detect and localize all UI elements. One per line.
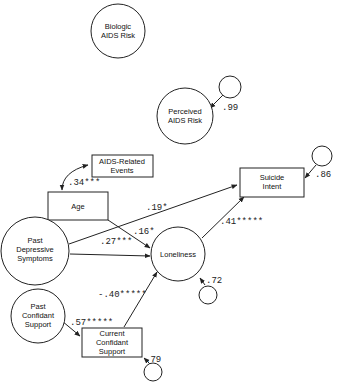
svg-text:Suicide: Suicide (260, 173, 285, 182)
residual-circle-perceived (219, 76, 241, 98)
coef-events-age: .34*** (68, 178, 100, 188)
residual-label-perceived: .99 (222, 103, 238, 113)
residual-label-currconf: .79 (145, 355, 161, 365)
coef-loneliness-suicide: .41***** (220, 217, 263, 227)
svg-text:Intent: Intent (263, 182, 283, 191)
node-perceived-aids-risk: Perceived AIDS Risk (157, 88, 213, 144)
svg-text:Confidant: Confidant (96, 338, 129, 347)
svg-text:Past: Past (30, 302, 46, 311)
residual-circle-loneliness (199, 286, 217, 304)
coef-pastconf-currconf: .57***** (70, 318, 113, 328)
svg-text:AIDS Risk: AIDS Risk (101, 31, 135, 40)
svg-text:Past: Past (27, 236, 43, 245)
svg-text:AIDS-Related: AIDS-Related (99, 157, 145, 166)
svg-text:Support: Support (25, 320, 52, 329)
svg-text:Symptoms: Symptoms (17, 254, 53, 263)
coef-age-loneliness: .16* (133, 227, 155, 237)
residual-circle-currconf (144, 363, 162, 381)
residual-label-suicide: .86 (315, 170, 331, 180)
edge-pastdep-loneliness (70, 254, 150, 256)
node-loneliness: Loneliness (151, 227, 205, 281)
node-aids-related-events: AIDS-Related Events (92, 155, 153, 177)
node-current-confidant-support: Current Confidant Support (82, 328, 142, 357)
node-suicide-intent: Suicide Intent (240, 168, 304, 197)
svg-text:Current: Current (99, 329, 125, 338)
svg-text:Age: Age (71, 202, 84, 211)
svg-text:Support: Support (99, 347, 126, 356)
node-past-depressive-symptoms: Past Depressive Symptoms (1, 217, 69, 285)
svg-text:Biologic: Biologic (105, 22, 132, 31)
svg-text:Confidant: Confidant (22, 311, 55, 320)
node-age: Age (48, 192, 108, 220)
node-biologic-aids-risk: Biologic AIDS Risk (91, 4, 145, 58)
svg-text:Perceived: Perceived (168, 107, 201, 116)
svg-text:Depressive: Depressive (16, 245, 54, 254)
coef-pastdep-suicide: .19* (146, 203, 168, 213)
svg-text:Loneliness: Loneliness (160, 250, 196, 259)
coef-currconf-loneliness: -.40***** (98, 290, 147, 300)
residual-edge-loneliness (200, 278, 205, 285)
residual-circle-suicide (312, 146, 332, 166)
path-diagram: Biologic AIDS Risk Perceived AIDS Risk A… (0, 0, 345, 392)
residual-label-loneliness: .72 (206, 276, 222, 286)
node-past-confidant-support: Past Confidant Support (11, 289, 65, 343)
coef-pastdep-loneliness: .27*** (100, 237, 132, 247)
svg-text:AIDS Risk: AIDS Risk (168, 116, 202, 125)
svg-text:Events: Events (111, 166, 134, 175)
